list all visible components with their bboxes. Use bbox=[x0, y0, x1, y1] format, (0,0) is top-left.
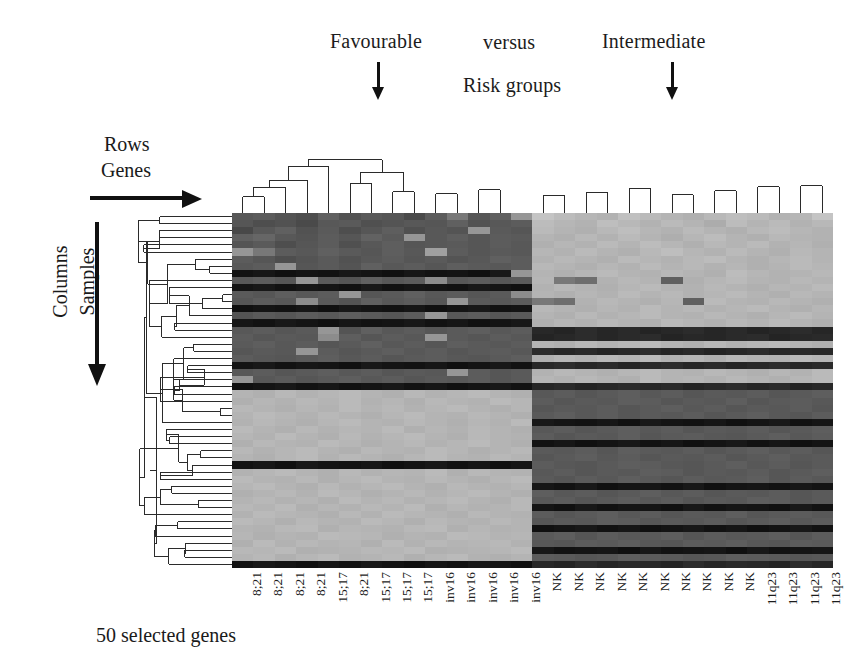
heatmap-cell bbox=[425, 447, 446, 454]
heatmap-cell bbox=[769, 447, 790, 454]
heatmap-cell bbox=[704, 518, 725, 525]
heatmap-cell bbox=[704, 405, 725, 412]
heatmap-cell bbox=[790, 490, 811, 497]
heatmap-cell bbox=[769, 277, 790, 284]
heatmap-cell bbox=[618, 469, 639, 476]
heatmap-cell bbox=[382, 227, 403, 234]
heatmap-cell bbox=[554, 256, 575, 263]
heatmap-cell bbox=[554, 419, 575, 426]
heatmap-cell bbox=[575, 390, 596, 397]
heatmap-cell bbox=[704, 334, 725, 341]
heatmap-cell bbox=[618, 312, 639, 319]
heatmap-cell bbox=[661, 490, 682, 497]
heatmap-cell bbox=[812, 383, 833, 390]
heatmap-cell bbox=[232, 319, 253, 326]
heatmap-cell bbox=[490, 405, 511, 412]
heatmap-cell bbox=[704, 511, 725, 518]
heatmap-cell bbox=[425, 561, 446, 568]
label-columns: Columns bbox=[49, 217, 72, 347]
heatmap-cell bbox=[425, 334, 446, 341]
heatmap-cell bbox=[511, 355, 532, 362]
heatmap-cell bbox=[726, 532, 747, 539]
heatmap-cell bbox=[790, 327, 811, 334]
heatmap-cell bbox=[447, 277, 468, 284]
heatmap-cell bbox=[704, 270, 725, 277]
heatmap-cell bbox=[296, 383, 317, 390]
heatmap-cell bbox=[575, 220, 596, 227]
heatmap-cell bbox=[511, 483, 532, 490]
heatmap-cell bbox=[404, 490, 425, 497]
heatmap-cell bbox=[661, 405, 682, 412]
heatmap-cell bbox=[597, 348, 618, 355]
heatmap-cell bbox=[382, 540, 403, 547]
heatmap-cell bbox=[769, 291, 790, 298]
heatmap-cell bbox=[382, 348, 403, 355]
heatmap-cell bbox=[726, 504, 747, 511]
heatmap-cell bbox=[661, 525, 682, 532]
heatmap-cell bbox=[425, 405, 446, 412]
heatmap-cell bbox=[339, 540, 360, 547]
heatmap-cell bbox=[232, 390, 253, 397]
heatmap-cell bbox=[683, 504, 704, 511]
heatmap-cell bbox=[468, 454, 489, 461]
heatmap-cell bbox=[296, 540, 317, 547]
heatmap-cell bbox=[468, 213, 489, 220]
heatmap-cell bbox=[704, 298, 725, 305]
heatmap-cell bbox=[361, 511, 382, 518]
heatmap-cell bbox=[554, 440, 575, 447]
heatmap-cell bbox=[790, 497, 811, 504]
heatmap-cell bbox=[661, 412, 682, 419]
heatmap-cell bbox=[704, 412, 725, 419]
heatmap-cell bbox=[554, 511, 575, 518]
heatmap-cell bbox=[275, 312, 296, 319]
heatmap-cell bbox=[683, 227, 704, 234]
heatmap-cell bbox=[790, 525, 811, 532]
heatmap-cell bbox=[447, 518, 468, 525]
heatmap-cell bbox=[554, 461, 575, 468]
heatmap-cell bbox=[790, 270, 811, 277]
heatmap-cell bbox=[683, 405, 704, 412]
heatmap-cell bbox=[425, 511, 446, 518]
heatmap-cell bbox=[683, 341, 704, 348]
heatmap-cell bbox=[683, 561, 704, 568]
heatmap-cell bbox=[640, 405, 661, 412]
heatmap-cell bbox=[812, 291, 833, 298]
heatmap-cell bbox=[575, 532, 596, 539]
heatmap-cell bbox=[532, 476, 553, 483]
heatmap-cell bbox=[404, 369, 425, 376]
heatmap-cell bbox=[275, 241, 296, 248]
heatmap-cell bbox=[726, 426, 747, 433]
heatmap-cell bbox=[661, 312, 682, 319]
heatmap-cell bbox=[425, 440, 446, 447]
heatmap-cell bbox=[575, 476, 596, 483]
heatmap-cell bbox=[468, 419, 489, 426]
heatmap-cell bbox=[275, 390, 296, 397]
heatmap-cell bbox=[597, 383, 618, 390]
heatmap-cell bbox=[618, 341, 639, 348]
heatmap-cell bbox=[661, 234, 682, 241]
heatmap-cell bbox=[618, 419, 639, 426]
heatmap-cell bbox=[790, 412, 811, 419]
heatmap-cell bbox=[253, 426, 274, 433]
heatmap-cell bbox=[361, 419, 382, 426]
heatmap-cell bbox=[511, 532, 532, 539]
heatmap-cell bbox=[490, 284, 511, 291]
heatmap-cell bbox=[468, 476, 489, 483]
heatmap-cell bbox=[726, 461, 747, 468]
heatmap-cell bbox=[683, 319, 704, 326]
heatmap-cell bbox=[361, 227, 382, 234]
heatmap-cell bbox=[575, 341, 596, 348]
heatmap-cell bbox=[640, 490, 661, 497]
heatmap-cell bbox=[468, 362, 489, 369]
heatmap-cell bbox=[253, 398, 274, 405]
heatmap-cell bbox=[575, 497, 596, 504]
heatmap-cell bbox=[511, 497, 532, 504]
heatmap-cell bbox=[726, 433, 747, 440]
label-risk-groups: Risk groups bbox=[463, 74, 561, 97]
heatmap-cell bbox=[253, 419, 274, 426]
heatmap-cell bbox=[275, 341, 296, 348]
heatmap-cell bbox=[382, 298, 403, 305]
heatmap-cell bbox=[404, 426, 425, 433]
heatmap-cell bbox=[382, 554, 403, 561]
column-label: NK bbox=[592, 572, 608, 592]
